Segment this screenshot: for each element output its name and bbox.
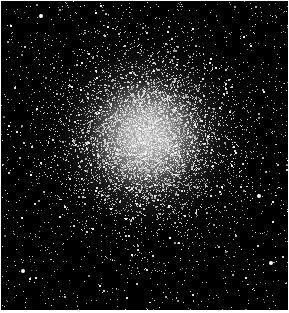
star-field-canvas: [1, 1, 288, 310]
star-cluster-photo: [1, 1, 288, 310]
